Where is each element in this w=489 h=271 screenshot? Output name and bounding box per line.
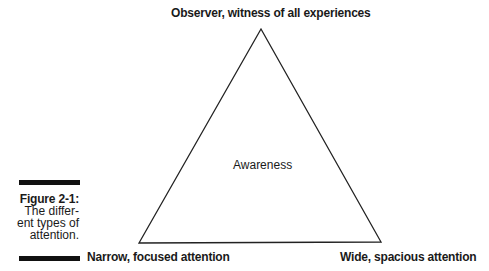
caption-line-3: attention.	[30, 229, 79, 241]
caption-top-rule	[19, 180, 80, 185]
center-label: Awareness	[233, 158, 292, 172]
awareness-triangle	[139, 29, 381, 243]
vertex-label-bottom-right: Wide, spacious attention	[340, 250, 476, 264]
vertex-label-bottom-left: Narrow, focused attention	[87, 250, 230, 264]
caption-bottom-rule	[19, 256, 80, 261]
vertex-label-top: Observer, witness of all experiences	[171, 6, 371, 20]
